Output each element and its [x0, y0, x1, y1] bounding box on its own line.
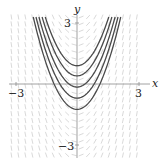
slope-segment — [25, 132, 26, 137]
slope-segment — [72, 16, 77, 17]
slope-segment — [101, 146, 103, 151]
slope-segment — [45, 139, 47, 144]
slope-segment — [39, 63, 40, 68]
slope-segment — [45, 118, 47, 123]
slope-segment — [108, 146, 110, 151]
slope-segment — [122, 90, 123, 95]
slope-segment — [32, 14, 33, 19]
slope-segment — [65, 153, 69, 157]
slope-segment — [115, 146, 116, 151]
slope-segment — [11, 111, 12, 116]
slope-segment — [108, 153, 110, 158]
slope-segment — [32, 97, 33, 102]
slope-segment — [101, 15, 103, 20]
slope-segment — [94, 118, 97, 123]
slope-segment — [122, 118, 123, 123]
slope-segment — [129, 90, 130, 95]
slope-segment — [32, 56, 33, 61]
slope-segment — [122, 56, 123, 61]
slope-segment — [129, 153, 130, 158]
slope-segment — [52, 139, 54, 144]
slope-segment — [115, 97, 116, 102]
slope-segment — [136, 77, 137, 82]
slope-segment — [115, 153, 116, 158]
slope-segment — [18, 125, 19, 130]
slope-segment — [94, 153, 97, 158]
slope-segment — [11, 125, 12, 130]
slope-segment — [39, 90, 40, 95]
slope-segment — [25, 139, 26, 144]
slope-segment — [129, 139, 130, 144]
slope-segment — [129, 63, 130, 68]
slope-segment — [108, 132, 110, 137]
slope-segment — [79, 57, 84, 59]
slope-segment — [86, 146, 90, 150]
slope-segment — [129, 70, 130, 75]
slope-segment — [136, 35, 137, 40]
slope-segment — [129, 77, 130, 82]
slope-segment — [94, 15, 97, 20]
slope-segment — [136, 146, 137, 151]
slope-segment — [45, 90, 47, 95]
slope-segment — [94, 22, 97, 27]
slope-segment — [94, 104, 97, 109]
slope-segment — [122, 111, 123, 116]
slope-segment — [115, 49, 116, 54]
slope-segment — [32, 21, 33, 26]
slope-segment — [129, 111, 130, 116]
slope-segment — [94, 132, 97, 137]
slope-segment — [72, 78, 77, 79]
slope-segment — [79, 120, 84, 122]
slope-segment — [18, 139, 19, 144]
slope-segment — [45, 104, 47, 109]
slope-segment — [39, 139, 40, 144]
slope-segment — [11, 118, 12, 123]
slope-segment — [115, 77, 116, 82]
slope-segment — [122, 125, 123, 130]
slope-segment — [32, 139, 33, 144]
slope-segment — [32, 132, 33, 137]
slope-segment — [122, 104, 123, 109]
slope-segment — [72, 120, 77, 121]
x-tick-label-pos: 3 — [135, 87, 142, 100]
slope-segment — [39, 49, 40, 54]
slope-segment — [65, 119, 69, 123]
slope-segment — [129, 125, 130, 130]
slope-segment — [129, 118, 130, 123]
slope-segment — [72, 134, 77, 135]
slope-segment — [79, 133, 84, 135]
slope-segment — [11, 42, 12, 47]
slope-segment — [45, 77, 47, 82]
slope-segment — [11, 146, 12, 151]
slope-segment — [25, 153, 26, 158]
slope-segment — [72, 154, 77, 155]
slope-segment — [52, 146, 54, 151]
slope-segment — [25, 49, 26, 54]
slope-segment — [115, 111, 116, 116]
slope-segment — [86, 43, 90, 47]
slope-segment — [52, 153, 54, 158]
slope-segment — [122, 70, 123, 75]
slope-segment — [129, 21, 130, 26]
slope-segment — [101, 104, 103, 109]
slope-segment — [108, 111, 110, 116]
x-axis-label: x — [152, 77, 159, 90]
slope-segment — [52, 125, 54, 130]
slope-segment — [101, 97, 103, 102]
slope-segment — [129, 35, 130, 40]
slope-segment — [25, 97, 26, 102]
slope-segment — [115, 70, 116, 75]
slope-segment — [129, 28, 130, 33]
slope-segment — [25, 21, 26, 26]
x-tick-label-neg: −3 — [8, 87, 24, 100]
slope-segment — [115, 56, 116, 61]
slope-segment — [86, 63, 90, 67]
slope-segment — [108, 104, 110, 109]
slope-segment — [39, 56, 40, 61]
slope-segment — [79, 140, 84, 142]
slope-segment — [115, 42, 116, 47]
slope-segment — [79, 147, 84, 149]
slope-segment — [122, 21, 123, 26]
slope-segment — [25, 63, 26, 68]
slope-segment — [79, 92, 84, 94]
